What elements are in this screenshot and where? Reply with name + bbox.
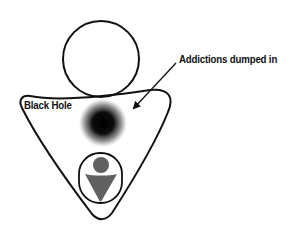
diagram-canvas xyxy=(0,0,306,231)
addictions-label: Addictions dumped in xyxy=(179,53,277,65)
black-hole-label: Black Hole xyxy=(24,99,72,111)
person-icon xyxy=(79,153,122,203)
black-hole-icon xyxy=(79,99,127,147)
head-circle-icon xyxy=(63,21,139,97)
